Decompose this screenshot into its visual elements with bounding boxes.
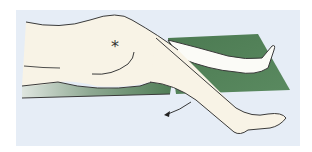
marker-asterisk: *: [111, 37, 119, 56]
rotation-arrow-head: [164, 111, 170, 117]
rotation-arrow-shaft: [168, 102, 191, 114]
patient-illustration: *: [0, 0, 312, 152]
